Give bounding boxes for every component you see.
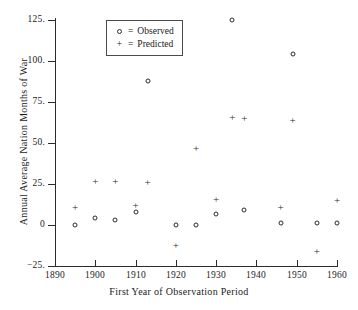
y-axis-tick-label: −25. <box>27 261 45 271</box>
x-axis-tick <box>337 260 338 267</box>
data-point-observed <box>73 223 78 228</box>
y-axis-tick <box>48 61 55 62</box>
data-point-observed <box>290 52 295 57</box>
data-point-predicted <box>333 196 342 205</box>
legend-marker-predicted-icon: + <box>114 38 125 51</box>
data-point-observed <box>93 216 98 221</box>
y-axis-tick-label: 25. <box>33 179 45 189</box>
x-axis-tick-label: 1900 <box>85 270 105 280</box>
x-axis-tick-label: 1960 <box>327 270 347 280</box>
data-point-predicted <box>111 176 120 185</box>
chart-legend: = Observed + = Predicted <box>106 20 183 56</box>
data-point-predicted <box>312 247 321 256</box>
x-axis-tick-label: 1940 <box>246 270 266 280</box>
y-axis-tick <box>48 102 55 103</box>
data-point-predicted <box>91 176 100 185</box>
y-axis-tick-label: 125. <box>28 15 45 25</box>
legend-equals-predicted: = <box>128 38 133 51</box>
y-axis-tick <box>48 184 55 185</box>
data-point-observed <box>173 223 178 228</box>
data-point-observed <box>242 208 247 213</box>
y-axis-tick-label: 50. <box>33 138 45 148</box>
legend-row-observed: = Observed <box>114 25 174 38</box>
x-axis-line <box>55 266 338 267</box>
data-point-observed <box>230 18 235 23</box>
data-point-predicted <box>192 143 201 152</box>
y-axis-title: Annual Average Nation Months of War <box>18 22 29 262</box>
data-point-predicted <box>240 114 249 123</box>
data-point-observed <box>335 221 340 226</box>
legend-row-predicted: + = Predicted <box>114 38 174 51</box>
scatter-plot-figure: −25.025.50.75.100.125. 18901900191019201… <box>0 0 358 310</box>
data-point-observed <box>113 218 118 223</box>
x-axis-title: First Year of Observation Period <box>0 286 358 297</box>
data-point-observed <box>214 211 219 216</box>
x-axis-tick-label: 1920 <box>166 270 186 280</box>
y-axis-tick-label: 100. <box>28 56 45 66</box>
y-axis-tick <box>48 143 55 144</box>
data-point-predicted <box>171 240 180 249</box>
legend-marker-observed-icon <box>114 25 125 38</box>
data-point-predicted <box>228 112 237 121</box>
x-axis-tick-label: 1890 <box>45 270 65 280</box>
x-axis-tick-label: 1930 <box>206 270 226 280</box>
legend-label-observed: Observed <box>137 25 173 38</box>
legend-label-predicted: Predicted <box>137 38 173 51</box>
y-axis-tick <box>48 266 55 267</box>
y-axis-tick-label: 75. <box>33 97 45 107</box>
data-point-observed <box>194 223 199 228</box>
data-point-predicted <box>71 203 80 212</box>
data-point-observed <box>278 221 283 226</box>
y-axis-tick <box>48 225 55 226</box>
data-point-observed <box>314 221 319 226</box>
x-axis-tick-label: 1910 <box>126 270 146 280</box>
legend-equals-observed: = <box>128 25 133 38</box>
x-axis-tick-label: 1950 <box>287 270 307 280</box>
data-point-predicted <box>131 201 140 210</box>
data-point-predicted <box>212 194 221 203</box>
data-point-predicted <box>276 203 285 212</box>
y-axis-tick-label: 0 <box>40 220 45 230</box>
data-point-predicted <box>288 116 297 125</box>
data-point-predicted <box>143 178 152 187</box>
y-axis-tick <box>48 20 55 21</box>
data-point-observed <box>145 78 150 83</box>
